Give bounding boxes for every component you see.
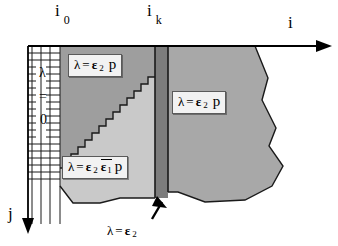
upper-left-p: p: [109, 56, 117, 72]
lower-left-epsilon2-sub: 1: [107, 165, 112, 175]
tick-label-i0: i0: [55, 2, 66, 19]
label-upper-left-region: λ=ε2p: [68, 54, 122, 77]
upper-left-lambda: λ: [74, 57, 80, 72]
j-axis-label: j: [8, 205, 13, 222]
tick-ik-sub: k: [156, 13, 162, 27]
tick-i0-base: i: [55, 1, 60, 20]
right-epsilon-sub: 2: [203, 100, 208, 110]
annotation-arrow-icon: [152, 196, 167, 219]
interface-bar-fill: [155, 46, 168, 198]
grid-label-zero: 0: [40, 113, 47, 127]
annotation-lambda: λ: [107, 223, 113, 238]
lower-left-equals: =: [76, 159, 83, 174]
lower-left-epsilon2: ε: [101, 159, 107, 174]
label-interface-annotation: λ=ε2: [107, 224, 137, 239]
lower-left-p: p: [115, 158, 123, 174]
annotation-equals: =: [115, 223, 122, 238]
upper-left-equals: =: [82, 57, 89, 72]
tick-i0-sub: 0: [64, 13, 70, 27]
right-lambda: λ: [178, 94, 184, 109]
annotation-epsilon: ε: [125, 223, 131, 238]
diagram-svg: [0, 0, 338, 246]
right-equals: =: [186, 94, 193, 109]
tick-ik-base: i: [147, 1, 152, 20]
lower-left-epsilon: ε: [86, 159, 92, 174]
label-right-region: λ=ε2p: [172, 91, 226, 114]
diagram-canvas: i0 ik i j λ = 0 λ=ε2p λ=ε2ε1p λ=ε2p λ=ε2: [0, 0, 338, 246]
lower-left-lambda: λ: [68, 159, 74, 174]
annotation-epsilon-sub: 2: [132, 229, 137, 239]
upper-left-epsilon-sub: 2: [99, 63, 104, 73]
tick-label-ik: ik: [147, 2, 158, 19]
j-axis-arrowhead: [22, 218, 34, 234]
lower-left-epsilon-sub: 2: [93, 165, 98, 175]
grid-label-lambda: λ: [39, 66, 46, 80]
i-axis-label: i: [288, 14, 293, 31]
i-axis-arrowhead: [316, 40, 332, 52]
right-region-fill: [168, 46, 283, 202]
right-p: p: [213, 93, 221, 109]
right-epsilon: ε: [196, 94, 202, 109]
label-lower-left-region: λ=ε2ε1p: [62, 156, 128, 179]
upper-left-epsilon: ε: [92, 57, 98, 72]
grid-label-equals: =: [39, 90, 47, 104]
lower-left-epsilon-bar-group: ε1: [101, 159, 112, 175]
